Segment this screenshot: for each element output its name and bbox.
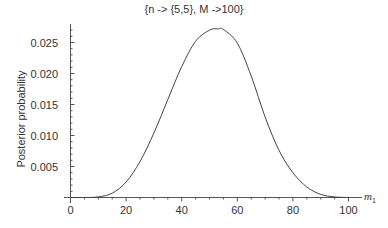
x-tick-label: 60 [231,204,243,216]
y-tick-label: 0.005 [30,161,58,173]
x-tick-label: 40 [176,204,188,216]
x-tick-label: 100 [339,204,357,216]
x-axis-label: m [364,190,372,202]
x-tick-label: 80 [287,204,299,216]
y-tick-label: 0.015 [30,99,58,111]
y-tick-label: 0.010 [30,130,58,142]
x-tick-label: 20 [120,204,132,216]
x-axis-label-subscript: 1 [372,197,376,204]
y-tick-label: 0.025 [30,37,58,49]
y-tick-label: 0.020 [30,68,58,80]
posterior-curve [71,28,349,197]
plot-area: 0204060801000.0050.0100.0150.0200.025m1 [0,0,388,228]
axes: 0204060801000.0050.0100.0150.0200.025m1 [30,24,376,216]
x-tick-label: 0 [67,204,73,216]
